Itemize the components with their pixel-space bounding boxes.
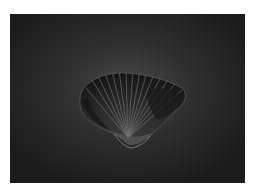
photo (10, 14, 245, 183)
shell-image (76, 68, 188, 154)
